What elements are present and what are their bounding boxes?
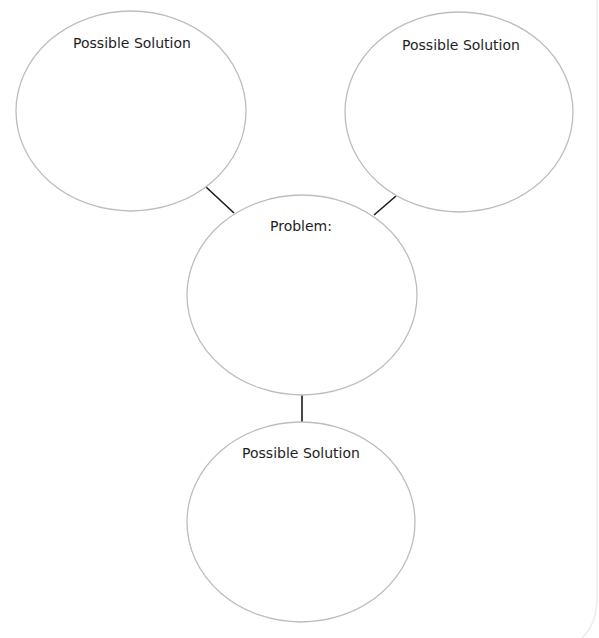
solution-label-top-right: Possible Solution [402, 37, 520, 53]
connector-top-left [206, 187, 234, 213]
page-edge [582, 0, 597, 638]
solution-label-bottom: Possible Solution [242, 445, 360, 461]
connector-top-right [374, 196, 396, 215]
diagram-svg [0, 0, 599, 638]
solution-label-top-left: Possible Solution [73, 35, 191, 51]
problem-label: Problem: [270, 218, 332, 234]
graphic-organizer: Possible Solution Possible Solution Prob… [0, 0, 599, 638]
